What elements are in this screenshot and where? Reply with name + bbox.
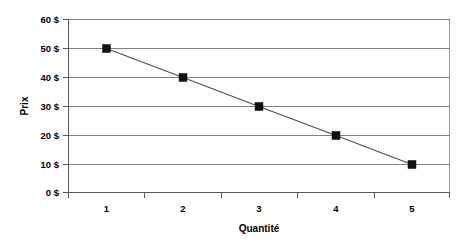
data-point-2 [179,74,187,82]
chart-svg: 60 $ 50 $ 40 $ 30 $ 20 $ 10 $ 0 $ 1 2 3 … [0,0,473,242]
x-tick-label-5: 5 [409,203,415,214]
y-tick-label-40: 40 $ [41,72,60,83]
y-tick-label-0: 0 $ [46,187,60,198]
y-tick-label-30: 30 $ [41,101,60,112]
data-point-5 [408,161,416,169]
price-quantity-line-chart: 60 $ 50 $ 40 $ 30 $ 20 $ 10 $ 0 $ 1 2 3 … [0,0,473,242]
y-tick-label-60: 60 $ [41,14,60,25]
data-point-1 [103,45,111,53]
y-axis-title: Prix [19,96,30,115]
chart-background [0,0,473,242]
x-tick-label-3: 3 [256,203,261,214]
y-tick-label-20: 20 $ [41,130,60,141]
x-tick-label-2: 2 [180,203,185,214]
x-tick-label-4: 4 [333,203,339,214]
x-axis-title: Quantité [239,223,280,234]
y-tick-label-50: 50 $ [41,43,60,54]
data-point-4 [332,132,340,140]
data-point-3 [255,103,263,111]
x-tick-label-1: 1 [104,203,110,214]
y-tick-label-10: 10 $ [41,159,60,170]
